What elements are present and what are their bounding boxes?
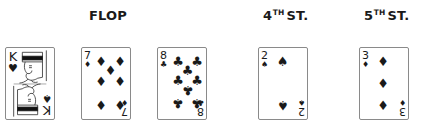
flop-label: FLOP — [89, 8, 127, 23]
flop-header: FLOP — [89, 8, 127, 23]
card-king: K ♥ — [5, 47, 55, 120]
card-corner-bottom: 3 ♦ — [399, 98, 406, 117]
fifth-superscript: TH — [374, 8, 386, 17]
diamond-icon: ♦ — [377, 55, 389, 68]
spade-icon: ♠ — [261, 61, 268, 69]
diamond-icon: ♦ — [399, 98, 406, 106]
card-three-diamonds: 3 ♦ ♦ ♦ ♦ 3 ♦ — [359, 47, 409, 120]
diamond-icon: ♦ — [362, 61, 369, 69]
spade-icon: ♠ — [277, 99, 289, 112]
fifth-street-header: 5THST. — [364, 8, 409, 23]
card-corner-bottom: 8 ♣ — [197, 98, 204, 117]
card-rank: K — [42, 104, 52, 117]
card-rank: 2 — [298, 106, 305, 117]
card-corner-top: 7 ♦ — [84, 50, 91, 69]
diamond-icon: ♦ — [95, 99, 107, 112]
spade-icon: ♠ — [42, 93, 52, 104]
card-corner-top: 2 ♠ — [261, 50, 268, 69]
fourth-number: 4 — [263, 8, 272, 23]
spade-icon: ♠ — [298, 98, 305, 106]
card-rank: 7 — [121, 106, 128, 117]
card-eight-clubs: 8 ♣ ♣ ♣ ♣ ♣ ♣ ♣ ♣ ♣ 8 ♣ — [157, 47, 207, 120]
spade-icon: ♠ — [277, 55, 289, 68]
club-icon: ♣ — [172, 97, 184, 110]
card-corner-top: 8 ♣ — [160, 50, 167, 69]
card-corner-bottom: K ♠ — [42, 93, 52, 117]
card-rank: 3 — [399, 106, 406, 117]
fourth-street-header: 4THST. — [263, 8, 308, 23]
diamond-icon: ♦ — [377, 77, 389, 90]
card-corner-bottom: 2 ♠ — [298, 98, 305, 117]
card-two-spades: 2 ♠ ♠ ♠ 2 ♠ — [258, 47, 308, 120]
card-rank: 8 — [197, 106, 204, 117]
card-seven-diamonds: 7 ♦ ♦ ♦ ♦ ♦ ♦ ♦ ♦ 7 ♦ — [81, 47, 131, 120]
card-corner-top: 3 ♦ — [362, 50, 369, 69]
club-icon: ♣ — [197, 98, 204, 106]
fifth-number: 5 — [364, 8, 373, 23]
diamond-icon: ♦ — [121, 98, 128, 106]
fifth-street-label: ST. — [388, 8, 410, 23]
diamond-icon: ♦ — [95, 75, 107, 88]
fourth-superscript: TH — [273, 8, 285, 17]
card-corner-bottom: 7 ♦ — [121, 98, 128, 117]
diamond-icon: ♦ — [84, 61, 91, 69]
club-icon: ♣ — [160, 61, 167, 69]
fourth-street-label: ST. — [287, 8, 309, 23]
diamond-icon: ♦ — [377, 99, 389, 112]
diamond-icon: ♦ — [114, 75, 126, 88]
